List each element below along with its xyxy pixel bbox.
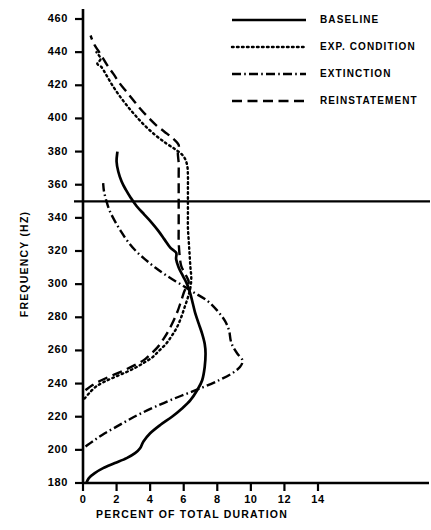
series-line-reinstatement: [86, 36, 189, 391]
legend-layer: [232, 20, 306, 101]
y-axis-title: FREQUENCY (HZ): [18, 204, 30, 324]
y-tick-label: 220: [22, 410, 68, 422]
series-line-extinction: [86, 183, 243, 446]
x-tick-label: 12: [272, 493, 296, 505]
x-tick-label: 6: [172, 493, 196, 505]
axis-layer: [74, 9, 430, 491]
figure-root: 1802002202402602803003203403603804004204…: [0, 0, 431, 530]
y-tick-label: 360: [22, 178, 68, 190]
y-tick-label: 380: [22, 145, 68, 157]
y-tick-label: 180: [22, 476, 68, 488]
legend-label-reinstatement: REINSTATEMENT: [320, 95, 418, 106]
x-tick-label: 2: [105, 493, 129, 505]
x-tick-label: 0: [71, 493, 95, 505]
y-tick-label: 260: [22, 343, 68, 355]
y-tick-label: 200: [22, 443, 68, 455]
x-tick-label: 10: [239, 493, 263, 505]
y-tick-label: 440: [22, 45, 68, 57]
legend-label-exp-condition: EXP. CONDITION: [320, 41, 416, 52]
x-tick-label: 14: [306, 493, 330, 505]
y-tick-label: 460: [22, 12, 68, 24]
y-tick-label: 240: [22, 377, 68, 389]
x-axis-title: PERCENT OF TOTAL DURATION: [96, 508, 288, 520]
series-line-exp-condition: [85, 52, 192, 398]
x-tick-label: 8: [205, 493, 229, 505]
legend-label-baseline: BASELINE: [320, 14, 379, 25]
x-tick-label: 4: [138, 493, 162, 505]
y-tick-label: 420: [22, 78, 68, 90]
y-tick-label: 400: [22, 111, 68, 123]
legend-label-extinction: EXTINCTION: [320, 68, 392, 79]
curve-layer: [85, 36, 243, 483]
